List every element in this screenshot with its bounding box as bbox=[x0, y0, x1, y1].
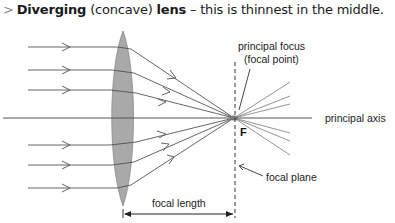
focal-point-marker bbox=[230, 116, 238, 121]
label-principal-axis: principal axis bbox=[325, 112, 386, 124]
label-focal-plane: focal plane bbox=[266, 171, 317, 183]
label-focal-point: (focal point) bbox=[244, 53, 299, 65]
label-focal-length: focal length bbox=[152, 197, 206, 209]
lens-diagram: principal focus (focal point) principal … bbox=[0, 0, 395, 223]
principal-focus-leader bbox=[239, 69, 250, 110]
focal-plane-leader bbox=[240, 166, 263, 176]
label-focus-letter: F bbox=[240, 126, 247, 138]
label-principal-focus: principal focus bbox=[238, 40, 305, 52]
refracted-rays bbox=[131, 49, 234, 185]
